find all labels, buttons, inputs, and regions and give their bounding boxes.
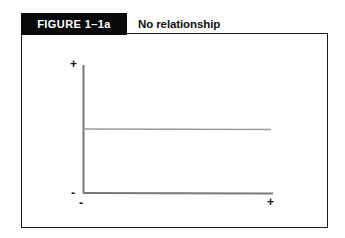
plot-area: + - - + <box>22 34 329 229</box>
figure-frame: + - - + <box>21 33 328 228</box>
x-axis-positive-label: + <box>267 196 274 208</box>
x-axis-line <box>83 193 273 194</box>
figure-container: FIGURE 1–1a No relationship + - - + <box>0 0 345 238</box>
figure-number-tag: FIGURE 1–1a <box>21 13 127 35</box>
data-line-no-relationship <box>84 129 272 130</box>
y-axis-negative-label: - <box>71 187 75 199</box>
y-axis-positive-label: + <box>70 58 77 70</box>
x-axis-negative-label: - <box>79 197 83 209</box>
figure-number-label: FIGURE 1–1a <box>37 18 110 30</box>
plot-svg <box>22 34 329 229</box>
figure-caption: No relationship <box>138 14 220 34</box>
